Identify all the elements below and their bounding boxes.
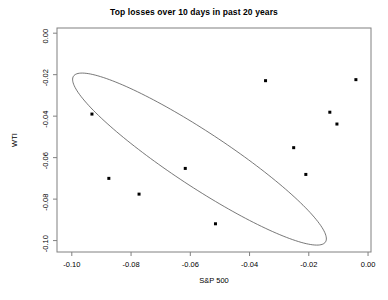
ellipse-outline — [73, 73, 327, 245]
x-tick-label: -0.02 — [300, 260, 317, 269]
y-axis-label: WTI — [10, 133, 19, 147]
data-point — [304, 173, 307, 176]
data-point — [354, 78, 357, 81]
x-tick-label: -0.08 — [123, 260, 140, 269]
scatter-chart: Top losses over 10 days in past 20 years… — [0, 0, 388, 300]
y-tick-label: -0.08 — [41, 194, 50, 211]
plot-area: -0.10-0.08-0.06-0.04-0.020.00 0.00-0.02-… — [0, 0, 388, 300]
x-tick-label: 0.00 — [361, 260, 376, 269]
data-point — [214, 222, 217, 225]
data-point — [264, 79, 267, 82]
y-tick-label: -0.04 — [41, 111, 50, 128]
data-points — [90, 78, 357, 225]
y-tick-label: -0.10 — [41, 235, 50, 252]
data-point — [335, 123, 338, 126]
data-point — [184, 167, 187, 170]
data-point — [292, 146, 295, 149]
data-point — [328, 111, 331, 114]
y-tick-label: -0.02 — [41, 69, 50, 86]
data-point — [138, 193, 141, 196]
y-tick-label: 0.00 — [41, 29, 50, 44]
data-point — [107, 177, 110, 180]
plot-frame — [57, 28, 371, 252]
confidence-ellipse — [73, 73, 327, 245]
x-tick-label: -0.04 — [241, 260, 258, 269]
y-tick-label: -0.06 — [41, 152, 50, 169]
x-axis-ticks: -0.10-0.08-0.06-0.04-0.020.00 — [63, 252, 375, 269]
x-tick-label: -0.10 — [63, 260, 80, 269]
x-tick-label: -0.06 — [182, 260, 199, 269]
data-point — [90, 113, 93, 116]
y-axis-ticks: 0.00-0.02-0.04-0.06-0.08-0.10 — [41, 29, 57, 252]
x-axis-label: S&P 500 — [199, 276, 228, 285]
frame-rect — [57, 28, 371, 252]
